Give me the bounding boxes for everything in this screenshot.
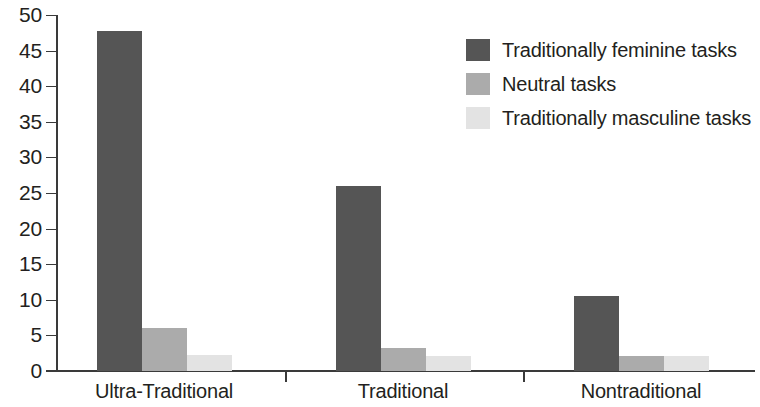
bar (142, 328, 187, 371)
x-axis-category-label: Ultra-Traditional (34, 379, 294, 403)
legend-swatch-icon (466, 73, 490, 95)
bar (187, 355, 232, 371)
legend-item-label: Neutral tasks (502, 73, 616, 95)
legend: Traditionally feminine tasksNeutral task… (466, 33, 751, 135)
y-axis-tick-label-text: 35 (2, 111, 42, 132)
legend-swatch-icon (466, 39, 490, 61)
legend-item-label: Traditionally masculine tasks (502, 107, 751, 129)
bar (619, 356, 664, 371)
y-axis-tick (46, 300, 57, 301)
y-axis-tick-label-text: 45 (2, 40, 42, 61)
y-axis-tick (46, 51, 57, 52)
bar (574, 296, 619, 371)
bar (381, 348, 426, 371)
y-axis-tick-label: 0 (0, 360, 42, 381)
bar (336, 186, 381, 371)
y-axis-tick (46, 122, 57, 123)
legend-item: Traditionally masculine tasks (466, 101, 751, 135)
y-axis-tick (46, 335, 57, 336)
bar-chart: 05101520253035404550 Ultra-TraditionalTr… (0, 0, 760, 407)
y-axis-tick-label: 45 (0, 40, 42, 61)
y-axis-tick-label-text: 15 (2, 253, 42, 274)
y-axis-tick (46, 229, 57, 230)
y-axis-tick-label-text: 20 (2, 218, 42, 239)
x-axis-category-label: Nontraditional (511, 379, 760, 403)
legend-item-label: Traditionally feminine tasks (502, 39, 737, 61)
y-axis-tick-label-text: 40 (2, 75, 42, 96)
plot-area: 05101520253035404550 Ultra-TraditionalTr… (0, 0, 760, 407)
bar (97, 31, 142, 371)
bar (426, 356, 471, 371)
y-axis-tick-label-text: 30 (2, 146, 42, 167)
y-axis-tick-label: 30 (0, 146, 42, 167)
y-axis-tick-label: 15 (0, 253, 42, 274)
y-axis-tick-label: 35 (0, 111, 42, 132)
y-axis-tick (46, 157, 57, 158)
y-axis-tick-label: 40 (0, 75, 42, 96)
y-axis-tick-label: 20 (0, 218, 42, 239)
y-axis-tick-label-text: 25 (2, 182, 42, 203)
y-axis-tick (46, 264, 57, 265)
x-axis-category-label: Traditional (273, 379, 533, 403)
y-axis-tick-label-text: 50 (2, 4, 42, 25)
bar (664, 356, 709, 371)
y-axis-tick-label: 50 (0, 4, 42, 25)
y-axis-tick-label: 25 (0, 182, 42, 203)
y-axis-tick-label: 10 (0, 289, 42, 310)
y-axis-tick (46, 193, 57, 194)
y-axis-tick-label: 5 (0, 324, 42, 345)
y-axis-tick (46, 15, 57, 16)
y-axis-tick-label-text: 0 (2, 360, 42, 381)
y-axis-tick-label-text: 10 (2, 289, 42, 310)
y-axis-tick-label-text: 5 (2, 324, 42, 345)
y-axis-tick (46, 86, 57, 87)
legend-swatch-icon (466, 107, 490, 129)
legend-item: Traditionally feminine tasks (466, 33, 751, 67)
legend-item: Neutral tasks (466, 67, 751, 101)
